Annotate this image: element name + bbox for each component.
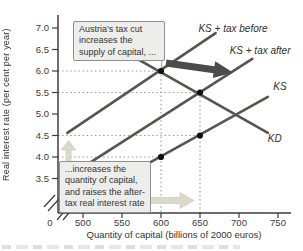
callout-line: tax real interest rate <box>65 198 145 209</box>
key-point-dot <box>197 89 203 95</box>
x-tick-label: 600 <box>153 217 169 228</box>
callout-line: supply of capital, ... <box>79 47 159 58</box>
y-tick-label: 4.0 <box>36 151 49 162</box>
key-point-dot <box>197 132 203 138</box>
callout-line: quantity of capital, <box>65 175 145 186</box>
x-tick-label: 650 <box>192 217 208 228</box>
callout-line: ...increases the <box>65 164 145 175</box>
callout-line: Austria's tax cut <box>79 24 159 35</box>
callout-line: and raises the after- <box>65 187 145 198</box>
x-tick-label: 750 <box>270 217 286 228</box>
callout-line: increases the <box>79 35 159 46</box>
x-tick-label: 500 <box>75 217 91 228</box>
y-tick-label: 7.0 <box>36 22 49 33</box>
curve-label-kd: KD <box>268 133 282 144</box>
curve-label-ks-tax-before: KS + tax before <box>198 23 268 34</box>
x-tick-label: 700 <box>231 217 247 228</box>
key-point-dot <box>158 154 164 160</box>
y-tick-label: 3.5 <box>36 173 49 184</box>
supply-shift-arrow <box>166 60 234 79</box>
capital-market-figure: Real interest rate (per cent per year) 7… <box>0 0 303 251</box>
y-tick-label: 5.5 <box>36 87 49 98</box>
y-tick-label: 4.5 <box>36 130 49 141</box>
callout-quantity-rate: ...increases the quantity of capital, an… <box>59 161 151 213</box>
y-tick-label: 5.0 <box>36 108 49 119</box>
callout-tax-cut: Austria's tax cut increases the supply o… <box>73 21 165 61</box>
quantity-increase-arrow <box>150 193 194 209</box>
x-tick-label: 0 <box>47 217 52 228</box>
curve-label-ks: KS <box>273 81 287 92</box>
rate-rise-arrow <box>61 141 76 164</box>
x-axis-title: Quantity of capital (billions of 2000 eu… <box>58 229 290 240</box>
key-point-dot <box>158 68 164 74</box>
cropped-caption-remnant <box>2 245 240 249</box>
y-tick-label: 6.5 <box>36 44 49 55</box>
y-tick-label: 6.0 <box>36 65 49 76</box>
curve-label-ks-tax-after: KS + tax after <box>230 45 292 56</box>
x-tick-label: 550 <box>114 217 130 228</box>
